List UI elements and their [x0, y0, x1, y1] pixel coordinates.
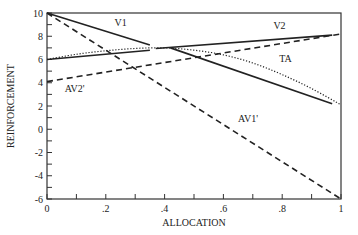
x-tick-label: .8 — [278, 203, 286, 214]
y-tick-label: 8 — [38, 31, 43, 42]
series-v1-line-segment-2 — [170, 48, 332, 104]
series-label-v1: V1 — [115, 17, 127, 28]
series-label-av2: AV2' — [65, 83, 85, 94]
series-marks — [47, 13, 341, 199]
x-tick-label: 0 — [45, 203, 50, 214]
series-v1-line-segment-1 — [47, 13, 150, 45]
y-tick-label: 2 — [38, 101, 43, 112]
x-tick-label: 1 — [339, 203, 344, 214]
series-label-av1: AV1' — [238, 113, 258, 124]
y-tick-label: -4 — [35, 170, 43, 181]
x-axis-title: ALLOCATION — [162, 217, 225, 228]
series-v2-line-segment-2 — [156, 35, 332, 48]
x-tick-label: .4 — [161, 203, 169, 214]
y-tick-label: -2 — [35, 147, 43, 158]
x-tick-label: .2 — [102, 203, 110, 214]
y-axis-title: REINFORCEMENT — [5, 64, 16, 148]
series-label-v2: V2 — [273, 20, 285, 31]
series-label-ta: TA — [279, 53, 292, 64]
y-tick-label: 4 — [38, 77, 43, 88]
y-tick-label: 10 — [33, 8, 43, 19]
y-tick-label: 6 — [38, 54, 43, 65]
y-tick-label: -6 — [35, 194, 43, 205]
y-tick-label: 0 — [38, 124, 43, 135]
chart: 0.2.4.6.81-6-4-20246810 V1V2TAAV1'AV2' A… — [0, 0, 358, 235]
series-labels: V1V2TAAV1'AV2' — [65, 17, 293, 124]
x-tick-label: .6 — [220, 203, 228, 214]
